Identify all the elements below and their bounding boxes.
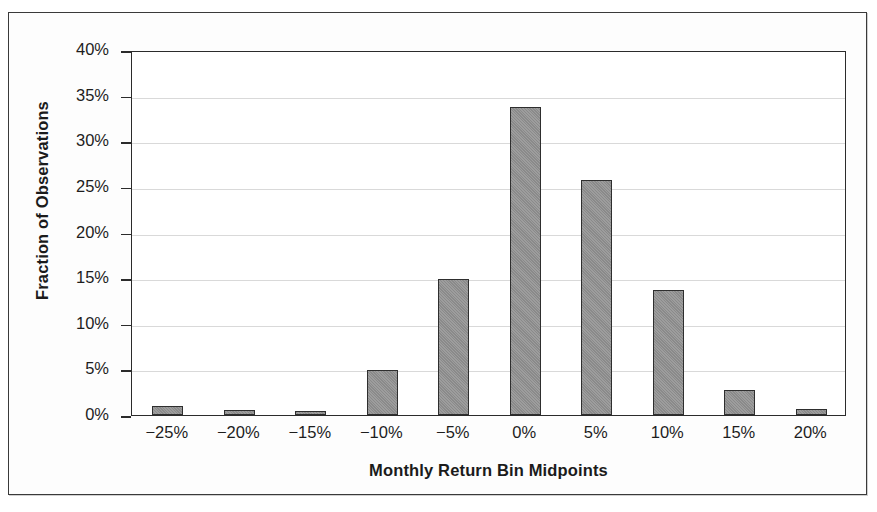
x-tick-label: −25% [131,423,203,442]
y-tick-label: 40% [76,40,109,59]
bar[interactable] [510,107,541,415]
y-tick-mark [121,97,131,99]
y-tick-label: 30% [76,131,109,150]
bar[interactable] [796,409,827,415]
y-tick-mark [121,234,131,236]
x-tick-label: −10% [346,423,418,442]
gridline [132,143,845,144]
y-tick-label: 20% [76,223,109,242]
x-axis-ticks: −25%−20%−15%−10%−5%0%5%10%15%20% [131,423,846,449]
y-tick-mark [121,370,131,372]
x-tick-label: −15% [274,423,346,442]
gridline [132,371,845,372]
bar[interactable] [367,370,398,415]
y-tick-mark [121,142,131,144]
plot-area [131,51,846,416]
y-axis-ticks: 0%5%10%15%20%25%30%35%40% [9,51,131,416]
gridline [132,280,845,281]
y-tick-mark [121,279,131,281]
y-tick-mark [121,325,131,327]
y-tick-label: 0% [85,405,109,424]
bar[interactable] [438,279,469,415]
y-tick-label: 25% [76,177,109,196]
x-axis-title: Monthly Return Bin Midpoints [131,461,846,480]
y-tick-label: 15% [76,268,109,287]
gridline [132,98,845,99]
bar[interactable] [295,411,326,415]
y-tick-label: 5% [85,359,109,378]
y-tick-mark [121,188,131,190]
bar[interactable] [581,180,612,415]
x-tick-label: 5% [560,423,632,442]
y-tick-label: 10% [76,314,109,333]
bar[interactable] [224,410,255,415]
bar[interactable] [653,290,684,415]
x-tick-label: 0% [489,423,561,442]
x-tick-label: 10% [632,423,704,442]
x-tick-label: −20% [203,423,275,442]
bar[interactable] [724,390,755,415]
gridline [132,189,845,190]
bar[interactable] [152,406,183,415]
gridline [132,326,845,327]
y-tick-mark [121,416,131,418]
x-tick-label: 15% [703,423,775,442]
figure-frame: Fraction of Observations 0%5%10%15%20%25… [8,12,867,495]
y-tick-mark [121,51,131,53]
y-tick-label: 35% [76,86,109,105]
gridline [132,235,845,236]
x-tick-label: −5% [417,423,489,442]
x-tick-label: 20% [775,423,847,442]
